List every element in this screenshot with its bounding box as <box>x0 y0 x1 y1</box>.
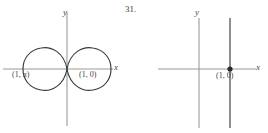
point-label-1-0: (1, 0) <box>216 72 233 80</box>
y-axis-label: y <box>195 8 199 17</box>
figure-lemniscate: y x (1, π) (1, 0) <box>0 0 134 133</box>
x-axis-label: x <box>114 63 118 72</box>
y-axis-label: y <box>63 8 67 17</box>
point-label-1-0: (1, 0) <box>79 71 96 79</box>
x-axis-label: x <box>256 63 260 72</box>
point-label-1-pi: (1, π) <box>12 71 29 79</box>
figure-vertical-line: y x (1, 0) <box>134 0 268 133</box>
vertical-line-svg <box>134 0 268 133</box>
